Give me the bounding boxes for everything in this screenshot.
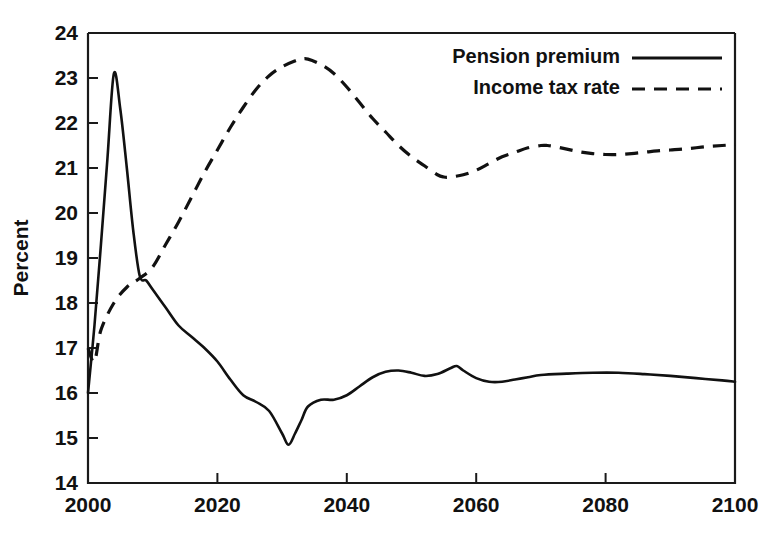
chart-figure: 1415161718192021222324 20002020204020602…	[0, 0, 773, 540]
x-tick-label: 2020	[194, 493, 241, 516]
legend-label: Pension premium	[452, 45, 620, 67]
plot-frame	[88, 33, 735, 483]
x-tick-label: 2100	[712, 493, 759, 516]
y-tick-label: 19	[55, 246, 78, 269]
y-tick-label: 24	[55, 21, 79, 44]
chart-legend: Pension premiumIncome tax rate	[452, 45, 722, 98]
x-tick-label: 2000	[65, 493, 112, 516]
y-tick-label: 17	[55, 336, 78, 359]
y-tick-label: 20	[55, 201, 78, 224]
y-tick-label: 18	[55, 291, 79, 314]
series-line-income-tax-rate	[88, 59, 735, 362]
axis-frame	[88, 33, 735, 483]
y-tick-label: 22	[55, 111, 78, 134]
x-axis-ticks: 200020202040206020802100	[65, 473, 759, 516]
legend-label: Income tax rate	[473, 76, 620, 98]
x-tick-label: 2060	[453, 493, 500, 516]
line-chart: 1415161718192021222324 20002020204020602…	[0, 0, 773, 540]
y-tick-label: 15	[55, 426, 79, 449]
x-tick-label: 2040	[323, 493, 370, 516]
y-tick-label: 23	[55, 66, 78, 89]
series-line-pension-premium	[88, 72, 735, 445]
y-tick-label: 21	[55, 156, 79, 179]
y-tick-label: 14	[55, 471, 79, 494]
y-axis-ticks: 1415161718192021222324	[55, 21, 98, 494]
series-lines	[88, 59, 735, 445]
x-tick-label: 2080	[582, 493, 629, 516]
y-axis-title: Percent	[9, 219, 32, 296]
y-tick-label: 16	[55, 381, 78, 404]
